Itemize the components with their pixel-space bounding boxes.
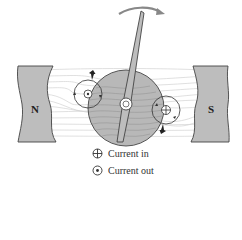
dot-in-circle-icon (92, 165, 103, 176)
legend-label-current-in: Current in (108, 148, 149, 159)
north-pole-label: N (31, 103, 39, 115)
force-arrow-up-icon (89, 70, 96, 80)
south-pole-label: S (208, 103, 214, 115)
force-arrow-down-icon (160, 124, 167, 134)
cross-in-circle-icon (92, 148, 103, 159)
axle-center (123, 101, 129, 107)
legend-current-out: Current out (92, 165, 154, 176)
legend-current-in: Current in (92, 148, 149, 159)
legend-label-current-out: Current out (108, 165, 154, 176)
